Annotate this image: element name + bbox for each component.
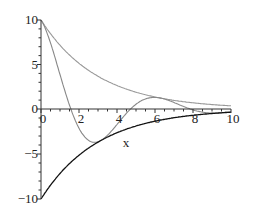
curve-damped-cosine [41,20,231,142]
x-tick-label: 2 [78,111,85,126]
curve-upper-envelope [41,20,231,106]
x-tick-label: 8 [192,111,199,126]
curve-lower-envelope [41,112,231,199]
x-tick-label: 6 [154,111,161,126]
line-chart: 02468101050−5−10 x [0,0,254,215]
y-tick-label: 5 [32,57,39,72]
axes: 02468101050−5−10 [18,12,240,206]
y-tick-label: −5 [24,146,38,161]
x-tick-label: 10 [227,111,240,126]
y-tick-label: 10 [25,12,38,27]
y-tick-label: −10 [18,191,38,206]
x-axis-label: x [123,135,130,150]
x-tick-label: 4 [116,111,123,126]
y-tick-label: 0 [32,101,39,116]
